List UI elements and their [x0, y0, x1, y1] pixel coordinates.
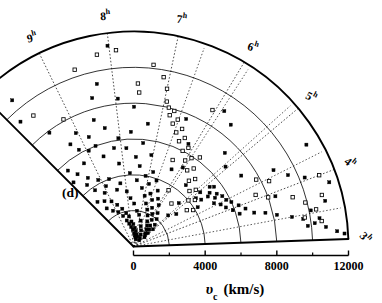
data-point-filled: [313, 222, 316, 225]
data-point-open: [138, 91, 141, 94]
data-point-filled: [305, 143, 308, 146]
data-point-filled: [156, 212, 159, 215]
hour-tick-text: 6h: [246, 38, 260, 55]
data-point-filled: [117, 211, 120, 214]
data-point-filled: [11, 99, 14, 102]
data-point-filled: [153, 223, 156, 226]
data-point-filled: [184, 184, 187, 187]
data-point-filled: [244, 207, 247, 210]
figure-panel: 3h4h5h6h7h8h9h10h04000800012000υc(km/s)(…: [0, 0, 382, 303]
data-point-filled: [105, 207, 108, 210]
data-point-filled: [103, 127, 106, 130]
data-point-filled: [155, 218, 158, 221]
data-point-filled: [116, 97, 119, 100]
data-point-filled: [113, 147, 116, 150]
data-point-open: [171, 158, 174, 161]
data-point-filled: [139, 219, 142, 222]
data-point-open: [167, 106, 170, 109]
data-point-filled: [238, 212, 241, 215]
data-point-open: [198, 156, 201, 159]
hour-tick-text: 3h: [358, 228, 376, 246]
data-point-open: [254, 193, 257, 196]
data-point-open: [171, 122, 174, 125]
hour-tick-label-8h: 8h: [100, 7, 112, 22]
data-point-filled: [125, 147, 128, 150]
data-point-filled: [240, 174, 243, 177]
data-point-filled: [95, 82, 98, 85]
data-point-open: [188, 189, 191, 192]
data-point-filled: [118, 162, 121, 165]
data-point-filled: [150, 154, 153, 157]
data-point-open: [291, 196, 294, 199]
data-point-filled: [200, 198, 203, 201]
data-point-open: [320, 193, 323, 196]
data-point-filled: [140, 229, 143, 232]
data-point-filled: [110, 200, 113, 203]
data-point-filled: [127, 215, 130, 218]
data-point-filled: [129, 130, 132, 133]
data-point-open: [304, 201, 307, 204]
data-point-filled: [208, 185, 211, 188]
data-point-open: [320, 219, 323, 222]
data-point-filled: [144, 202, 147, 205]
data-point-filled: [139, 225, 142, 228]
data-point-filled: [111, 209, 114, 212]
data-point-filled: [286, 174, 289, 177]
hour-tick-text: 8h: [100, 7, 112, 22]
data-point-open: [193, 177, 196, 180]
data-point-filled: [132, 223, 135, 226]
data-point-open: [192, 167, 195, 170]
data-point-filled: [187, 142, 190, 145]
data-point-filled: [219, 203, 222, 206]
data-point-filled: [134, 155, 137, 158]
axis-title-subscript: c: [213, 290, 218, 301]
data-point-open: [62, 118, 65, 121]
data-point-filled: [19, 120, 22, 123]
data-point-filled: [306, 224, 309, 227]
hour-tick-text: 7h: [176, 10, 188, 25]
data-point-filled: [221, 195, 224, 198]
velocity-axis-title: υc(km/s): [206, 281, 265, 302]
data-point-filled: [206, 195, 209, 198]
data-point-open: [165, 100, 168, 103]
velocity-tick-label-4000: 4000: [193, 259, 217, 273]
data-point-open: [183, 159, 186, 162]
data-point-filled: [151, 212, 154, 215]
hour-tick-label-5h: 5h: [304, 87, 320, 105]
data-point-filled: [117, 137, 120, 140]
data-point-filled: [231, 209, 234, 212]
data-point-open: [176, 118, 179, 121]
data-point-filled: [336, 230, 339, 233]
data-point-filled: [94, 144, 97, 147]
data-point-filled: [69, 143, 72, 146]
data-point-filled: [125, 219, 128, 222]
data-point-filled: [253, 211, 256, 214]
data-point-filled: [290, 215, 293, 218]
data-point-open: [181, 149, 184, 152]
data-point-filled: [77, 148, 80, 151]
data-point-filled: [309, 209, 312, 212]
data-point-filled: [146, 208, 149, 211]
data-point-filled: [157, 197, 160, 200]
data-point-filled: [108, 178, 111, 181]
data-point-filled: [138, 239, 141, 242]
data-point-filled: [143, 194, 146, 197]
data-point-filled: [87, 149, 90, 152]
hour-tick-text: 5h: [304, 87, 320, 105]
data-point-filled: [138, 213, 141, 216]
data-point-filled: [125, 212, 128, 215]
data-point-filled: [103, 191, 106, 194]
velocity-tick-label-0: 0: [131, 259, 137, 273]
data-point-filled: [146, 220, 149, 223]
data-point-filled: [324, 225, 327, 228]
data-point-open: [185, 169, 188, 172]
data-point-open: [190, 156, 193, 159]
data-point-filled: [116, 203, 119, 206]
data-point-filled: [155, 179, 158, 182]
data-point-open: [114, 49, 117, 52]
data-point-filled: [152, 170, 155, 173]
data-point-filled: [125, 190, 128, 193]
data-point-open: [183, 136, 186, 139]
data-point-filled: [146, 214, 149, 217]
data-point-filled: [272, 169, 275, 172]
